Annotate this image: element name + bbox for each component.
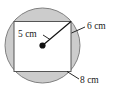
radius-label: 5 cm: [18, 29, 37, 39]
height-label: 6 cm: [87, 21, 106, 31]
width-label-leader: [67, 72, 79, 80]
geometry-figure: 5 cm 6 cm 8 cm: [0, 0, 115, 99]
diagram-canvas: 5 cm 6 cm 8 cm: [0, 0, 115, 99]
width-label: 8 cm: [80, 75, 99, 85]
center-point-dot: [39, 42, 45, 48]
